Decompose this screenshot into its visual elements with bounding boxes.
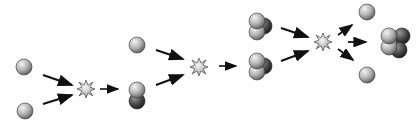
proton-out-top	[359, 4, 375, 20]
proton-1	[16, 59, 32, 75]
proton-3	[129, 37, 145, 53]
fusion-flash-icon	[190, 58, 208, 76]
arrow-icon	[338, 49, 353, 60]
fusion-diagram-canvas	[0, 0, 420, 132]
proton-out-bottom	[359, 67, 375, 83]
helium-4-nucleus	[381, 28, 410, 58]
arrow-icon	[43, 75, 72, 85]
fusion-flash-icon	[77, 80, 95, 98]
arrow-icon	[281, 51, 308, 61]
arrow-icon	[156, 75, 183, 85]
arrow-icon	[281, 28, 308, 37]
arrow-icon	[43, 95, 72, 104]
deuteron	[129, 82, 145, 109]
fusion-flash-icon	[314, 33, 332, 51]
fusion-diagram	[0, 0, 420, 132]
proton-2	[17, 103, 33, 119]
helium-3-nucleus-2	[249, 53, 272, 80]
arrow-icon	[338, 25, 352, 35]
helium-3-nucleus-1	[249, 13, 272, 40]
arrow-icon	[156, 50, 183, 59]
